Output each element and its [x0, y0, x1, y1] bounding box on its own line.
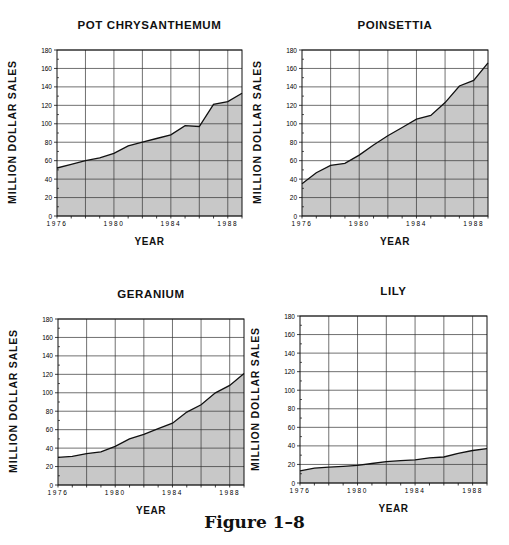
y-tick-label: 40 — [46, 445, 54, 452]
x-tick-label: 1980 — [103, 220, 124, 227]
y-tick-label: 140 — [42, 352, 53, 359]
y-tick-label: 160 — [286, 65, 297, 72]
y-tick-label: 80 — [46, 408, 54, 415]
y-tick-label: 160 — [41, 65, 52, 72]
y-tick-label: 100 — [284, 387, 295, 394]
y-axis-label: MILLION DOLLAR SALES — [6, 47, 18, 217]
chart-title-poinsettia: POINSETTIA — [295, 19, 495, 31]
x-tick-label: 1988 — [219, 489, 240, 496]
y-tick-label: 40 — [290, 176, 298, 183]
y-tick-label: 20 — [46, 463, 54, 470]
x-axis-label: YEAR — [365, 236, 425, 247]
y-tick-label: 140 — [286, 83, 297, 90]
area-chart-lily: 0204060801001201401601801976198019841988 — [274, 310, 491, 499]
y-tick-label: 120 — [41, 102, 52, 109]
y-tick-label: 140 — [41, 83, 52, 90]
y-tick-label: 100 — [42, 389, 53, 396]
y-tick-label: 80 — [288, 405, 296, 412]
y-axis-label: MILLION DOLLAR SALES — [7, 316, 19, 486]
y-tick-label: 180 — [42, 316, 53, 323]
chart-title-geranium: GERANIUM — [51, 288, 251, 300]
x-tick-label: 1980 — [349, 220, 370, 227]
y-tick-label: 40 — [288, 442, 296, 449]
x-tick-label: 1988 — [462, 487, 483, 494]
x-tick-label: 1988 — [463, 220, 484, 227]
area-chart-pot-chrysanthemum: 0204060801001201401601801976198019841988 — [31, 44, 246, 232]
y-tick-label: 100 — [286, 120, 297, 127]
y-tick-label: 0 — [291, 480, 295, 487]
y-tick-label: 20 — [288, 461, 296, 468]
x-tick-label: 1988 — [217, 220, 238, 227]
y-tick-label: 180 — [41, 47, 52, 54]
y-tick-label: 180 — [286, 47, 297, 54]
y-tick-label: 140 — [284, 350, 295, 357]
y-tick-label: 80 — [45, 139, 53, 146]
x-tick-label: 1984 — [405, 487, 426, 494]
y-tick-label: 0 — [293, 213, 297, 220]
x-tick-label: 1984 — [406, 220, 427, 227]
area-chart-geranium: 0204060801001201401601801976198019841988 — [32, 313, 248, 501]
y-tick-label: 100 — [41, 120, 52, 127]
y-tick-label: 160 — [284, 331, 295, 338]
y-tick-label: 60 — [290, 157, 298, 164]
figure-caption: Figure 1–8 — [0, 512, 509, 532]
x-tick-label: 1980 — [105, 489, 126, 496]
y-tick-label: 60 — [45, 157, 53, 164]
chart-title-lily: LILY — [294, 285, 494, 297]
y-tick-label: 180 — [284, 313, 295, 320]
y-tick-label: 0 — [49, 482, 53, 489]
y-tick-label: 20 — [45, 194, 53, 201]
x-tick-label: 1976 — [292, 220, 313, 227]
y-tick-label: 120 — [284, 368, 295, 375]
chart-title-pot-chrysanthemum: POT CHRYSANTHEMUM — [50, 19, 250, 31]
x-tick-label: 1976 — [47, 220, 68, 227]
area-fill — [300, 449, 487, 483]
y-tick-label: 20 — [290, 194, 298, 201]
y-axis-label: MILLION DOLLAR SALES — [249, 314, 261, 484]
x-tick-label: 1976 — [290, 487, 311, 494]
x-axis-label: YEAR — [120, 236, 180, 247]
y-tick-label: 120 — [42, 371, 53, 378]
y-tick-label: 60 — [46, 426, 54, 433]
area-fill — [58, 373, 244, 485]
x-tick-label: 1976 — [48, 489, 69, 496]
x-tick-label: 1984 — [162, 489, 183, 496]
y-tick-label: 60 — [288, 424, 296, 431]
y-tick-label: 160 — [42, 334, 53, 341]
y-tick-label: 40 — [45, 176, 53, 183]
x-tick-label: 1980 — [347, 487, 368, 494]
y-tick-label: 120 — [286, 102, 297, 109]
y-tick-label: 80 — [290, 139, 298, 146]
area-chart-poinsettia: 0204060801001201401601801976198019841988 — [276, 44, 492, 232]
y-tick-label: 0 — [48, 213, 52, 220]
x-tick-label: 1984 — [160, 220, 181, 227]
y-axis-label: MILLION DOLLAR SALES — [251, 47, 263, 217]
